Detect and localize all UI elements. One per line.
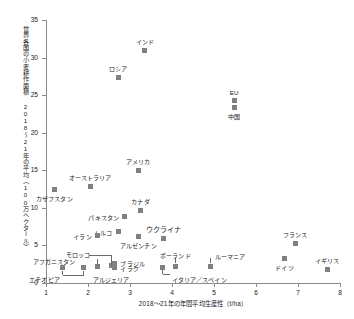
point-label: イラク <box>120 265 138 272</box>
point-label: ドイツ <box>275 264 293 271</box>
x-tick-2 <box>88 283 89 287</box>
data-marker <box>138 208 143 213</box>
y-tick-25 <box>42 95 46 96</box>
leader-morocco-h <box>89 255 111 256</box>
leader-romania-v <box>210 258 211 263</box>
point-label: アメリカ <box>126 158 150 165</box>
scatter-chart: 世界各国の小麦耕作面積 2018〜21年の平均（100万ヘクタール） 05101… <box>0 0 354 319</box>
point-label: パキスタン <box>88 214 119 221</box>
data-marker <box>293 241 298 246</box>
data-marker <box>282 256 287 261</box>
leader-poland-v <box>175 258 176 263</box>
x-tick-5 <box>214 283 215 287</box>
point-label: 中国 <box>228 113 240 120</box>
x-tick-label-1: 1 <box>38 289 54 296</box>
point-label: アフガニスタン <box>33 258 76 265</box>
point-label: カナダ <box>131 198 149 205</box>
point-label: オーストラリア <box>69 174 112 181</box>
point-label: ルーマニア <box>215 253 246 260</box>
data-marker <box>81 265 86 270</box>
data-marker <box>116 229 121 234</box>
leader-algeria-v <box>83 271 84 275</box>
x-tick-7 <box>298 283 299 287</box>
point-label: アルジェリア <box>93 276 130 283</box>
data-marker <box>232 105 237 110</box>
point-label: エチオピア <box>29 276 60 283</box>
data-marker <box>173 264 178 269</box>
point-label: ウクライナ <box>146 226 182 233</box>
y-tick-15 <box>42 170 46 171</box>
y-tick-30 <box>42 58 46 59</box>
x-axis-line <box>46 283 340 284</box>
data-marker <box>208 264 213 269</box>
data-marker <box>112 265 117 270</box>
x-tick-1 <box>46 283 47 287</box>
y-tick-label-30: 30 <box>12 54 38 61</box>
x-tick-3 <box>130 283 131 287</box>
data-marker <box>142 48 147 53</box>
point-label: アルゼンチン <box>120 242 157 249</box>
leader-italy-h <box>163 274 170 275</box>
y-tick-10 <box>42 208 46 209</box>
y-tick-label-20: 20 <box>12 129 38 136</box>
leader-afghanistan-v <box>97 259 98 266</box>
x-tick-label-7: 7 <box>290 289 306 296</box>
y-tick-35 <box>42 20 46 21</box>
point-label: EU <box>230 89 239 96</box>
y-tick-20 <box>42 133 46 134</box>
leader-ethiopia-algeria-h <box>63 275 84 276</box>
y-tick-label-15: 15 <box>12 166 38 173</box>
point-label: フランス <box>283 231 307 238</box>
x-tick-label-5: 5 <box>206 289 222 296</box>
data-marker <box>161 236 166 241</box>
point-label: インド <box>136 38 154 45</box>
x-tick-8 <box>340 283 341 287</box>
data-marker <box>160 265 165 270</box>
point-label: イラン <box>73 233 91 240</box>
data-marker <box>232 98 237 103</box>
x-tick-4 <box>172 283 173 287</box>
data-marker <box>136 234 141 239</box>
y-tick-label-5: 5 <box>12 241 38 248</box>
data-marker <box>60 265 65 270</box>
point-label: カザフスタン <box>36 195 73 202</box>
x-tick-label-6: 6 <box>248 289 264 296</box>
leader-morocco-v <box>111 255 112 266</box>
point-label: イタリア／スペイン <box>172 276 227 283</box>
x-tick-6 <box>256 283 257 287</box>
y-tick-label-10: 10 <box>12 204 38 211</box>
data-marker <box>95 233 100 238</box>
data-marker <box>136 168 141 173</box>
data-marker <box>325 267 330 272</box>
y-tick-5 <box>42 245 46 246</box>
y-tick-label-35: 35 <box>12 16 38 23</box>
data-marker <box>122 214 127 219</box>
y-axis-title: 世界各国の小麦耕作面積 2018〜21年の平均（100万ヘクタール） <box>13 26 29 276</box>
data-marker <box>116 75 121 80</box>
point-label: イギリス <box>315 257 339 264</box>
point-label: ロシア <box>109 65 127 72</box>
y-tick-label-25: 25 <box>12 91 38 98</box>
x-tick-label-8: 8 <box>332 289 348 296</box>
x-tick-label-2: 2 <box>80 289 96 296</box>
x-tick-label-4: 4 <box>164 289 180 296</box>
x-tick-label-3: 3 <box>122 289 138 296</box>
x-axis-title: 2018〜21年の年間平均生産性（t/ha） <box>46 299 340 308</box>
y-axis-line <box>46 20 47 283</box>
data-marker <box>52 187 57 192</box>
data-marker <box>88 184 93 189</box>
